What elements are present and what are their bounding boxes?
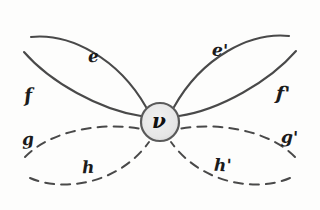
edge-label-h-prime: h' [214,157,232,175]
edge-label-e: e [88,48,100,66]
edge-g-prime-curve [178,126,295,157]
diagram-svg [0,0,320,210]
edge-label-g-prime: g' [281,129,299,147]
diagram-canvas: e f e' f' g h g' h' ν [0,0,320,210]
edge-label-g: g [22,131,35,149]
edge-f-curve [24,52,141,116]
edge-label-f-prime: f' [275,84,290,104]
vertex-label-nu: ν [152,111,166,131]
edge-label-f: f [23,86,32,106]
edge-e-prime-curve [174,36,289,107]
edge-label-e-prime: e' [212,42,229,60]
edge-g-curve [25,126,142,157]
edge-label-h: h [82,159,95,176]
